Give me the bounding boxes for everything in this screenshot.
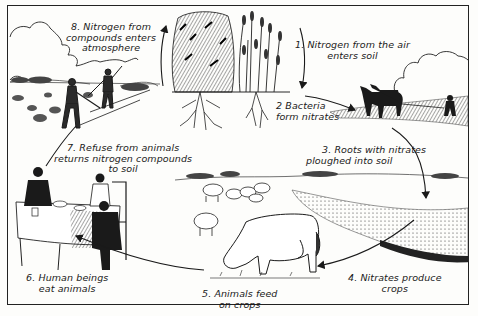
arrow-8-to-plants — [161, 26, 166, 86]
step-2-line-1: 2 Bacteria — [276, 101, 339, 112]
step-5-line-1: 5. Animals feed — [202, 289, 278, 300]
step-8-line-3: atmosphere — [66, 43, 156, 54]
step-6-line-1: 6. Human beings — [26, 273, 108, 284]
family-at-dinner-table — [16, 167, 126, 270]
step-4-label: 4. Nitrates produce crops — [348, 273, 442, 294]
step-6-line-2: eat animals — [26, 284, 108, 295]
step-7-line-3: to soil — [54, 164, 192, 175]
step-2-line-2: form nitrates — [276, 112, 339, 123]
step-1-line-2: enters soil — [295, 51, 410, 62]
step-6-label: 6. Human beings eat animals — [26, 273, 108, 294]
step-3-line-1: 3. Roots with nitrates — [306, 145, 426, 156]
step-3-label: 3. Roots with nitrates ploughed into soi… — [306, 145, 426, 166]
farmers-spreading-manure — [62, 66, 150, 128]
step-5-label: 5. Animals feed on crops — [202, 289, 278, 310]
step-1-label: 1. Nitrogen from the air enters soil — [295, 40, 410, 61]
step-1-line-1: 1. Nitrogen from the air — [295, 40, 410, 51]
manure-heaps — [12, 92, 93, 122]
step-3-line-2: ploughed into soil — [306, 156, 426, 167]
horses-ploughing-field — [330, 84, 468, 126]
step-7-line-1: 7. Refuse from animals — [54, 143, 192, 154]
step-8-line-1: 8. Nitrogen from — [66, 22, 156, 33]
nitrogen-cycle-diagram: 1. Nitrogen from the air enters soil 2 B… — [0, 0, 478, 316]
step-7-label: 7. Refuse from animals returns nitrogen … — [54, 143, 192, 175]
step-4-line-1: 4. Nitrates produce — [348, 273, 442, 284]
step-8-label: 8. Nitrogen from compounds enters atmosp… — [66, 22, 156, 54]
step-5-line-2: on crops — [202, 300, 278, 311]
step-2-label: 2 Bacteria form nitrates — [276, 101, 339, 122]
leafy-plant-with-roots — [172, 12, 290, 130]
grazing-cow — [224, 214, 320, 274]
step-4-line-2: crops — [348, 284, 442, 295]
